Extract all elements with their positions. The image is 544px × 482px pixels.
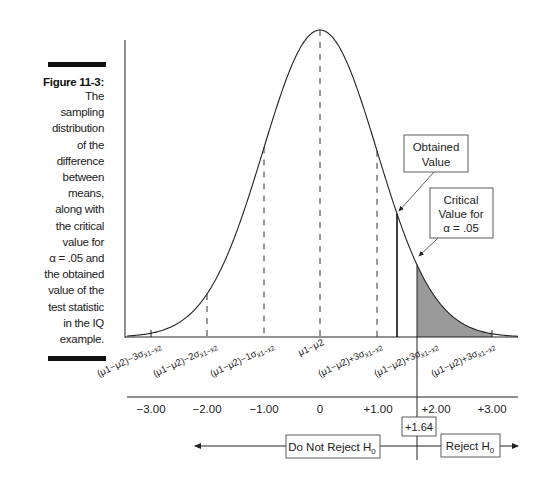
- sd-label: (μ1−μ2)−2σx̄1−x̄2: [151, 340, 219, 380]
- z-scale-ticks: −3.00 −2.00 −1.00 0 +1.00 +2.00 +3.00: [136, 403, 506, 415]
- z-tick: +1.00: [363, 403, 392, 415]
- svg-text:+1.64: +1.64: [405, 421, 433, 433]
- sd-guides: [207, 30, 377, 337]
- do-not-reject-box: Do Not Reject H0: [286, 435, 380, 458]
- rejection-region: [417, 265, 492, 337]
- callout-text: Obtained: [413, 141, 460, 153]
- z-tick: +3.00: [477, 403, 506, 415]
- mean-label: μ1−μ2: [296, 336, 325, 357]
- callout-text: α = .05: [443, 222, 479, 234]
- sd-label: (μ1−μ2)+3σx̄1−x̄2: [372, 340, 440, 380]
- sd-label: (μ1−μ2)+3σx̄1−x̄2: [429, 340, 497, 380]
- callout-text: Value for: [438, 208, 483, 220]
- critical-value-callout: Critical Value for α = .05: [419, 188, 493, 256]
- normal-curve: [127, 30, 518, 336]
- critical-value-box: +1.64: [402, 417, 436, 436]
- callout-text: Value: [422, 156, 451, 168]
- z-tick: 0: [317, 403, 323, 415]
- z-tick: +2.00: [421, 403, 450, 415]
- z-tick: −1.00: [249, 403, 278, 415]
- reject-box: Reject H0: [441, 434, 500, 457]
- sd-label: (μ1−μ2)−1σx̄1−x̄2: [208, 340, 276, 380]
- distribution-diagram: Obtained Value Critical Value for α = .0…: [0, 0, 544, 482]
- mean-difference-labels: (μ1−μ2)−3σx̄1−x̄2 (μ1−μ2)−2σx̄1−x̄2 (μ1−…: [95, 336, 497, 379]
- z-tick: −2.00: [192, 403, 221, 415]
- callout-text: Critical: [443, 194, 478, 206]
- z-tick: −3.00: [136, 403, 165, 415]
